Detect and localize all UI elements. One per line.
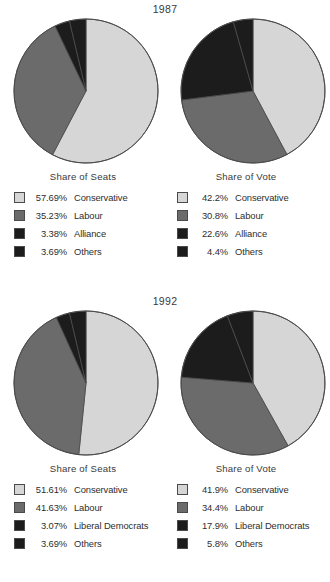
legend-item: 22.6%Alliance <box>177 225 329 241</box>
legend-item: 17.9%Liberal Democrats <box>177 517 329 533</box>
legend-swatch-conservative <box>14 192 25 203</box>
legend-swatch-others <box>14 538 25 549</box>
legend-label: Liberal Democrats <box>74 520 148 531</box>
pie-svg-1992-seats <box>13 308 159 458</box>
legend-percentage: 22.6% <box>192 228 228 239</box>
pie-svg-1987-seats <box>13 16 159 166</box>
year-title-1992: 1992 <box>0 292 330 308</box>
legend-swatch-alliance <box>177 228 188 239</box>
legend-1987-vote: Share of Vote 42.2%Conservative30.8%Labo… <box>177 171 329 261</box>
legend-item: 5.8%Others <box>177 535 329 551</box>
legend-item: 51.61%Conservative <box>14 481 166 497</box>
legend-label: Labour <box>235 502 264 513</box>
legend-list-1992-vote: 41.9%Conservative34.4%Labour17.9%Liberal… <box>177 481 329 551</box>
legend-item: 35.23%Labour <box>14 207 166 223</box>
legend-item: 3.69%Others <box>14 535 166 551</box>
legend-item: 57.69%Conservative <box>14 189 166 205</box>
pie-chart-1987-seats <box>13 16 159 166</box>
legend-swatch-labour <box>14 210 25 221</box>
year-panel-1987: 1987 Share of Seats 57.69%Conservative35… <box>0 0 330 289</box>
legends-row-1992: Share of Seats 51.61%Conservative41.63%L… <box>0 463 330 581</box>
legend-swatch-labour <box>14 502 25 513</box>
legend-label: Conservative <box>235 192 289 203</box>
legend-swatch-others <box>177 246 188 257</box>
legend-label: Liberal Democrats <box>235 520 309 531</box>
legend-label: Alliance <box>235 228 267 239</box>
legend-list-1987-vote: 42.2%Conservative30.8%Labour22.6%Allianc… <box>177 189 329 259</box>
legend-title-1992-seats: Share of Seats <box>14 463 166 474</box>
legend-item: 4.4%Others <box>177 243 329 259</box>
legend-item: 41.63%Labour <box>14 499 166 515</box>
legend-label: Labour <box>74 210 103 221</box>
legend-percentage: 17.9% <box>192 520 228 531</box>
legend-item: 30.8%Labour <box>177 207 329 223</box>
pie-charts-row-1987 <box>0 16 330 171</box>
pie-chart-1992-seats <box>13 308 159 458</box>
legend-item: 34.4%Labour <box>177 499 329 515</box>
legend-1992-seats: Share of Seats 51.61%Conservative41.63%L… <box>14 463 166 553</box>
legend-label: Conservative <box>235 484 289 495</box>
legend-percentage: 57.69% <box>29 192 67 203</box>
year-title-1987: 1987 <box>0 0 330 16</box>
legend-percentage: 41.9% <box>192 484 228 495</box>
pie-charts-row-1992 <box>0 308 330 463</box>
legend-percentage: 3.69% <box>29 538 67 549</box>
legend-list-1987-seats: 57.69%Conservative35.23%Labour3.38%Allia… <box>14 189 166 259</box>
legend-item: 3.69%Others <box>14 243 166 259</box>
pie-svg-1987-vote <box>180 16 326 166</box>
legend-item: 41.9%Conservative <box>177 481 329 497</box>
legend-swatch-conservative <box>177 192 188 203</box>
legend-swatch-liberal-democrats <box>177 520 188 531</box>
legend-percentage: 51.61% <box>29 484 67 495</box>
legend-swatch-others <box>14 246 25 257</box>
legend-swatch-liberal-democrats <box>14 520 25 531</box>
legend-swatch-conservative <box>14 484 25 495</box>
legend-item: 3.07%Liberal Democrats <box>14 517 166 533</box>
legend-percentage: 3.38% <box>29 228 67 239</box>
legends-row-1987: Share of Seats 57.69%Conservative35.23%L… <box>0 171 330 289</box>
legend-swatch-alliance <box>14 228 25 239</box>
legend-1987-seats: Share of Seats 57.69%Conservative35.23%L… <box>14 171 166 261</box>
legend-percentage: 5.8% <box>192 538 228 549</box>
legend-title-1987-seats: Share of Seats <box>14 171 166 182</box>
legend-percentage: 30.8% <box>192 210 228 221</box>
legend-percentage: 35.23% <box>29 210 67 221</box>
legend-percentage: 3.69% <box>29 246 67 257</box>
legend-title-1987-vote: Share of Vote <box>177 171 329 182</box>
year-panel-1992: 1992 Share of Seats 51.61%Conservative41… <box>0 292 330 581</box>
legend-item: 3.38%Alliance <box>14 225 166 241</box>
pie-chart-1992-vote <box>180 308 326 458</box>
legend-label: Conservative <box>74 192 128 203</box>
legend-percentage: 3.07% <box>29 520 67 531</box>
legend-label: Others <box>235 538 263 549</box>
legend-label: Others <box>74 246 102 257</box>
legend-percentage: 42.2% <box>192 192 228 203</box>
legend-list-1992-seats: 51.61%Conservative41.63%Labour3.07%Liber… <box>14 481 166 551</box>
legend-swatch-labour <box>177 210 188 221</box>
legend-label: Conservative <box>74 484 128 495</box>
legend-1992-vote: Share of Vote 41.9%Conservative34.4%Labo… <box>177 463 329 553</box>
legend-title-1992-vote: Share of Vote <box>177 463 329 474</box>
legend-swatch-labour <box>177 502 188 513</box>
legend-label: Alliance <box>74 228 106 239</box>
legend-item: 42.2%Conservative <box>177 189 329 205</box>
legend-percentage: 4.4% <box>192 246 228 257</box>
legend-percentage: 41.63% <box>29 502 67 513</box>
legend-label: Others <box>235 246 263 257</box>
legend-swatch-others <box>177 538 188 549</box>
pie-chart-1987-vote <box>180 16 326 166</box>
pie-slice-conservative <box>79 311 158 455</box>
legend-swatch-conservative <box>177 484 188 495</box>
pie-svg-1992-vote <box>180 308 326 458</box>
legend-percentage: 34.4% <box>192 502 228 513</box>
legend-label: Others <box>74 538 102 549</box>
legend-label: Labour <box>74 502 103 513</box>
legend-label: Labour <box>235 210 264 221</box>
